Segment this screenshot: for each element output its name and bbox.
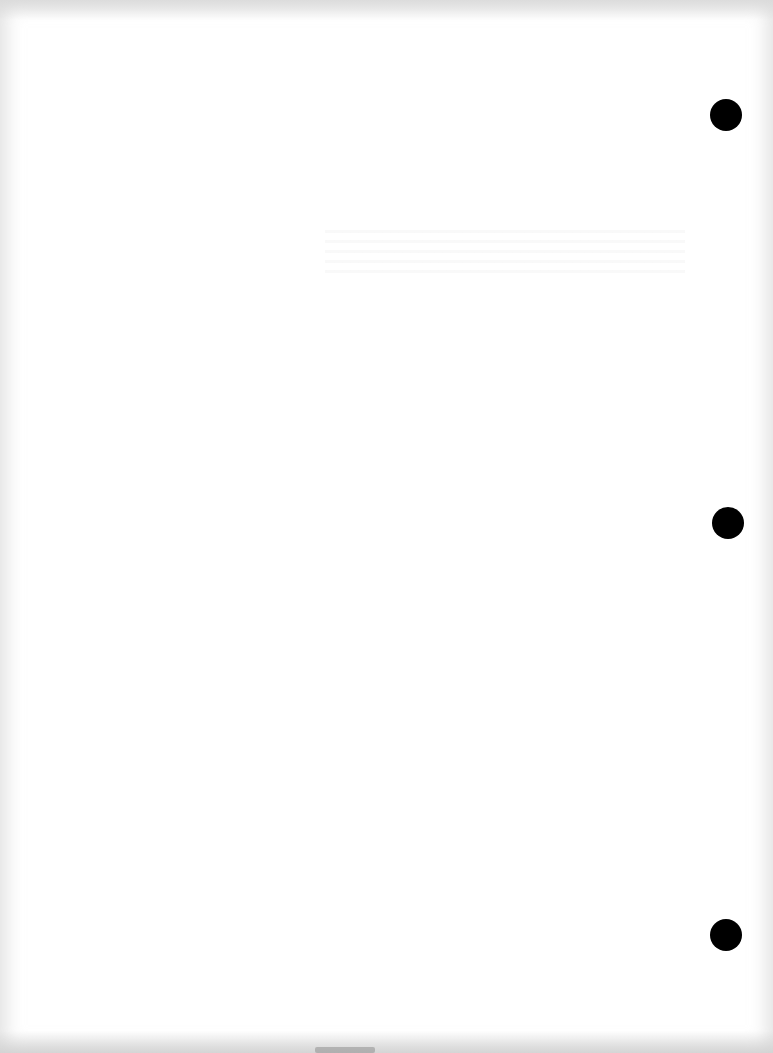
punch-hole-middle xyxy=(712,507,744,539)
scanned-page xyxy=(0,0,773,1053)
scan-edge-shadow-top xyxy=(0,0,773,20)
scan-smudge xyxy=(315,1047,375,1053)
bleed-through-artifact xyxy=(325,230,685,280)
punch-hole-top xyxy=(710,99,742,131)
punch-hole-bottom xyxy=(710,919,742,951)
scan-edge-shadow-bottom xyxy=(0,1031,773,1053)
